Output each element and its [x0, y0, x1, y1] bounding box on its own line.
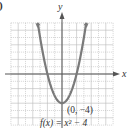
- function-label: f(x) = x² − 4: [40, 118, 88, 129]
- y-axis-label: y: [57, 1, 63, 12]
- x-axis-label: x: [121, 68, 127, 79]
- axes: [5, 12, 120, 128]
- function-graph: ) y x (0, −4) f(x) = x² − 4: [0, 0, 130, 136]
- corner-label: ): [0, 0, 3, 12]
- vertex-label: (0, −4): [67, 105, 93, 116]
